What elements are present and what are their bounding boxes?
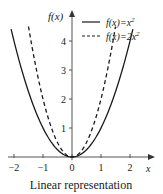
x-axis-label: x [145, 163, 151, 174]
y-axis-arrow-icon [69, 10, 75, 17]
x-tick-label: −2 [9, 162, 20, 173]
chart: −2−1012 1234 f(x) x f(x)=x2 f(x)=2x2 Lin… [0, 0, 163, 194]
legend-solid-label: f(x)=x2 [106, 16, 135, 29]
x-tick-label: 0 [70, 162, 75, 173]
y-tick-label: 3 [61, 65, 66, 76]
y-tick-label: 1 [61, 123, 66, 134]
x-tick-label: 2 [128, 162, 133, 173]
y-axis-label: f(x) [48, 10, 64, 23]
x-tick-label: −1 [38, 162, 49, 173]
legend: f(x)=x2 f(x)=2x2 [82, 16, 140, 43]
legend-dashed-label: f(x)=2x2 [106, 30, 140, 43]
chart-caption: Linear representation [30, 178, 132, 192]
y-ticks: 1234 [61, 36, 72, 134]
y-tick-label: 2 [61, 94, 66, 105]
y-tick-label: 4 [61, 36, 66, 47]
x-axis-arrow-icon [148, 154, 155, 160]
x-tick-label: 1 [99, 162, 104, 173]
